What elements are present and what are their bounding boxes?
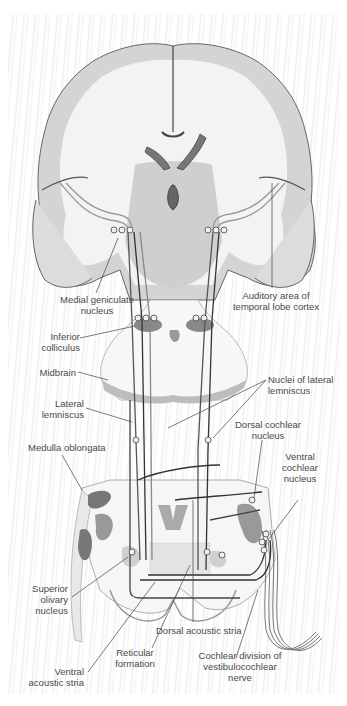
reticular-formation-area xyxy=(150,543,210,575)
label-line: Inferior xyxy=(30,331,80,342)
label-inferior-colliculus: Inferior colliculus xyxy=(30,331,80,353)
label-line: nucleus xyxy=(272,473,328,484)
label-lateral-lemniscus: Lateral lemniscus xyxy=(30,398,84,420)
label-line: cochlear xyxy=(272,462,328,473)
leader-lateral-lemniscus xyxy=(86,408,132,422)
label-ventral-acoustic-stria: Ventral acoustic stria xyxy=(20,666,84,688)
label-ventral-cochlear: Ventral cochlear nucleus xyxy=(272,451,328,484)
label-line: Medial geniculate xyxy=(52,294,142,305)
label-line: Reticular xyxy=(110,647,160,658)
label-line: temporal lobe cortex xyxy=(224,301,328,312)
third-ventricle xyxy=(168,185,179,210)
label-line: colliculus xyxy=(30,342,80,353)
medulla-left-wing xyxy=(71,490,92,642)
label-line: Auditory area of xyxy=(224,290,328,301)
label-line: nerve xyxy=(196,672,284,683)
label-cochlear-division: Cochlear division of vestibulocochlear n… xyxy=(196,650,284,683)
label-line: Dorsal acoustic stria xyxy=(156,625,242,636)
label-line: formation xyxy=(110,658,160,669)
brainstem xyxy=(71,300,275,642)
label-line: nucleus xyxy=(228,430,308,441)
label-dorsal-acoustic-stria: Dorsal acoustic stria xyxy=(156,625,242,636)
label-line: nucleus xyxy=(20,605,68,616)
label-line: acoustic stria xyxy=(20,677,84,688)
label-line: nucleus xyxy=(52,305,142,316)
label-line: Cochlear division of xyxy=(196,650,284,661)
label-line: Dorsal cochlear xyxy=(228,419,308,430)
label-line: Superior xyxy=(20,583,68,594)
label-superior-olivary: Superior olivary nucleus xyxy=(20,583,68,616)
leader-medulla xyxy=(62,455,82,490)
label-line: Lateral xyxy=(30,398,84,409)
right-inferior-colliculus xyxy=(186,318,214,332)
label-line: lemniscus xyxy=(30,409,84,420)
label-medial-geniculate: Medial geniculate nucleus xyxy=(52,294,142,316)
label-auditory-cortex: Auditory area of temporal lobe cortex xyxy=(224,290,328,312)
deep-gray-matter xyxy=(125,161,222,288)
label-midbrain: Midbrain xyxy=(30,367,76,378)
label-line: Midbrain xyxy=(30,367,76,378)
label-nuclei-lateral-lemniscus: Nuclei of lateral lemniscus xyxy=(268,374,347,396)
label-dorsal-cochlear: Dorsal cochlear nucleus xyxy=(228,419,308,441)
label-line: vestibulocochlear xyxy=(196,661,284,672)
label-line: Ventral xyxy=(272,451,328,462)
label-line: lemniscus xyxy=(268,385,347,396)
label-line: Medulla oblongata xyxy=(28,442,106,453)
cerebrum-section xyxy=(33,44,316,300)
label-reticular-formation: Reticular formation xyxy=(110,647,160,669)
auditory-pathway-diagram: Medial geniculate nucleus Auditory area … xyxy=(0,0,347,706)
label-line: olivary xyxy=(20,594,68,605)
label-line: Ventral xyxy=(20,666,84,677)
leader-ventral-cochlear xyxy=(268,500,298,540)
label-medulla: Medulla oblongata xyxy=(28,442,106,453)
label-line: Nuclei of lateral xyxy=(268,374,347,385)
